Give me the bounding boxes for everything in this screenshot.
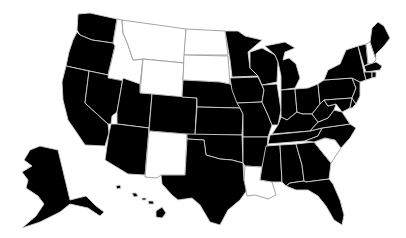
state-hawaii[interactable]: [116, 185, 166, 218]
state-south-dakota[interactable]: [183, 55, 230, 84]
us-map-svg: [0, 0, 406, 238]
state-montana[interactable]: [122, 20, 186, 63]
state-arizona[interactable]: [105, 124, 149, 175]
state-colorado[interactable]: [149, 94, 197, 135]
us-map: [0, 0, 406, 238]
state-kansas[interactable]: [195, 107, 243, 135]
state-rhode-island[interactable]: [372, 72, 376, 78]
state-alaska[interactable]: [22, 146, 104, 228]
state-new-mexico[interactable]: [145, 131, 187, 178]
state-florida[interactable]: [286, 179, 344, 225]
state-north-dakota[interactable]: [184, 29, 228, 55]
state-wyoming[interactable]: [140, 59, 184, 97]
state-iowa[interactable]: [230, 77, 264, 103]
